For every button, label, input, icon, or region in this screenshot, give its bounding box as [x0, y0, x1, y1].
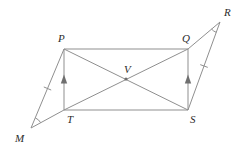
point-label-t: T [67, 113, 74, 125]
vertex-dots-group [124, 77, 127, 80]
vertex-dot-v [124, 77, 127, 80]
geometry-canvas: P Q T S V M R [0, 0, 242, 154]
point-label-m: M [14, 132, 25, 144]
point-label-q: Q [182, 32, 190, 44]
point-label-p: P [57, 32, 65, 44]
point-label-s: S [190, 113, 196, 125]
point-label-r: R [223, 6, 231, 18]
geometry-figure: P Q T S V M R [0, 0, 242, 154]
